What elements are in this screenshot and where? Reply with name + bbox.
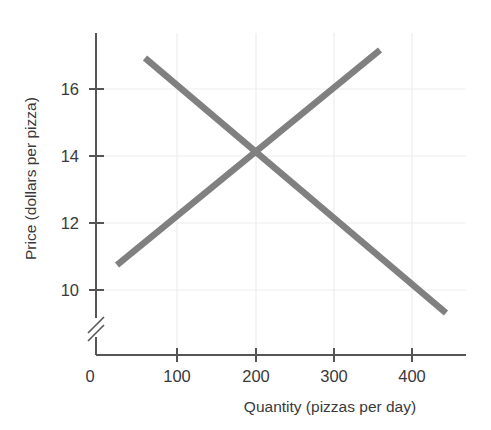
supply-demand-figure: 16 14 12 10 0 100 200 300 400 Price (dol… [0, 0, 491, 430]
x-tick-label-400: 400 [398, 367, 426, 385]
cropped-header-text [0, 0, 491, 14]
y-tick-label-14: 14 [61, 147, 79, 165]
x-tick-label-300: 300 [320, 367, 348, 385]
y-tick-label-16: 16 [61, 80, 79, 98]
x-tick-label-200: 200 [242, 367, 270, 385]
x-tick-label-0: 0 [85, 367, 94, 385]
chart-canvas: 16 14 12 10 0 100 200 300 400 Price (dol… [0, 0, 491, 430]
demand-curve [145, 58, 446, 313]
y-tick-label-12: 12 [61, 214, 79, 232]
x-axis-title: Quantity (pizzas per day) [244, 398, 416, 415]
y-axis-title: Price (dollars per pizza) [22, 97, 39, 260]
y-tick-label-10: 10 [61, 281, 79, 299]
gridlines [96, 33, 466, 355]
supply-curve [117, 50, 380, 265]
x-tick-label-100: 100 [163, 367, 191, 385]
